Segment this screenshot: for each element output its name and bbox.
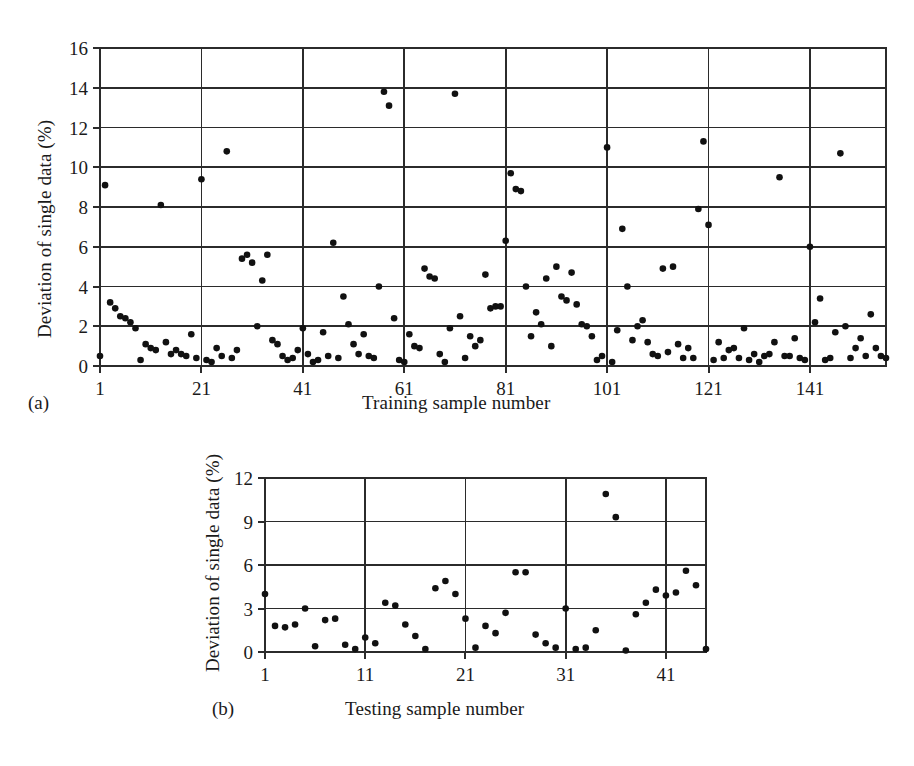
data-points-group	[262, 491, 710, 654]
data-point	[127, 319, 134, 326]
x-axis-group: 111213141	[260, 652, 675, 685]
data-point	[188, 331, 195, 338]
data-point	[512, 569, 519, 576]
panel-b-x-axis-title: Testing sample number	[345, 698, 524, 720]
data-point	[660, 265, 667, 272]
data-point	[703, 646, 710, 653]
data-point	[452, 90, 459, 97]
data-point	[218, 353, 225, 360]
data-point	[312, 643, 319, 650]
data-point	[883, 355, 890, 362]
data-point	[315, 357, 322, 364]
data-point	[392, 602, 399, 609]
data-point	[376, 283, 383, 290]
data-point	[502, 610, 509, 617]
data-point	[322, 617, 329, 624]
figure-container: 1214161811011211410246810121416 Deviatio…	[0, 0, 914, 766]
data-point	[705, 222, 712, 229]
data-point	[482, 623, 489, 630]
data-point	[381, 88, 388, 95]
data-point	[391, 315, 398, 322]
y-tick-label: 2	[79, 316, 89, 337]
data-point	[421, 265, 428, 272]
data-point	[330, 239, 337, 246]
data-point	[552, 644, 559, 651]
y-axis-group: 0246810121416	[69, 38, 100, 377]
data-point	[137, 357, 144, 364]
data-point	[573, 301, 580, 308]
data-point	[553, 263, 560, 270]
data-point	[746, 357, 753, 364]
data-point	[741, 325, 748, 332]
data-point	[371, 355, 378, 362]
data-point	[432, 585, 439, 592]
y-tick-label: 12	[234, 468, 253, 489]
data-point	[442, 359, 449, 366]
data-point	[259, 277, 266, 284]
data-point	[152, 347, 159, 354]
data-point	[294, 347, 301, 354]
data-point	[592, 627, 599, 634]
data-point	[289, 355, 296, 362]
data-point	[675, 341, 682, 348]
data-point	[609, 359, 616, 366]
data-point	[254, 323, 261, 330]
data-point	[568, 269, 575, 276]
data-point	[412, 633, 419, 640]
y-tick-label: 6	[244, 555, 254, 576]
data-point	[673, 589, 680, 596]
data-point	[693, 582, 700, 589]
data-point	[462, 615, 469, 622]
data-point	[812, 319, 819, 326]
x-tick-label: 21	[192, 378, 211, 399]
data-point	[756, 359, 763, 366]
y-tick-label: 4	[79, 277, 89, 298]
data-point	[614, 327, 621, 334]
data-point	[837, 150, 844, 157]
y-tick-label: 14	[69, 78, 89, 99]
y-tick-label: 0	[79, 356, 89, 377]
x-tick-label: 11	[356, 664, 374, 685]
panel-a-letter: (a)	[28, 392, 49, 414]
data-point	[736, 355, 743, 362]
data-point	[431, 275, 438, 282]
x-tick-label: 101	[593, 378, 622, 399]
data-point	[791, 335, 798, 342]
data-point	[655, 353, 662, 360]
gridlines-group	[100, 48, 886, 366]
data-point	[720, 355, 727, 362]
data-point	[528, 333, 535, 340]
data-point	[643, 599, 650, 606]
data-point	[518, 188, 525, 195]
data-point	[112, 305, 119, 312]
data-point	[862, 353, 869, 360]
data-point	[786, 353, 793, 360]
y-tick-label: 6	[79, 237, 89, 258]
data-point	[683, 568, 690, 575]
data-point	[422, 646, 429, 653]
data-point	[325, 353, 332, 360]
data-point	[663, 592, 670, 599]
data-point	[507, 170, 514, 177]
data-point	[827, 355, 834, 362]
data-point	[589, 333, 596, 340]
data-point	[198, 176, 205, 183]
data-point	[523, 283, 530, 290]
data-point	[342, 641, 349, 648]
data-point	[653, 586, 660, 593]
y-tick-label: 8	[79, 197, 89, 218]
data-point	[873, 345, 880, 352]
data-point	[213, 345, 220, 352]
data-point	[372, 640, 379, 647]
data-point	[183, 353, 190, 360]
data-point	[193, 355, 200, 362]
data-point	[282, 624, 289, 631]
y-tick-label: 0	[244, 642, 254, 663]
data-point	[665, 349, 672, 356]
data-point	[352, 646, 359, 653]
data-point	[604, 144, 611, 151]
data-point	[522, 569, 529, 576]
data-point	[602, 491, 609, 498]
data-point	[223, 148, 230, 155]
data-point	[416, 345, 423, 352]
